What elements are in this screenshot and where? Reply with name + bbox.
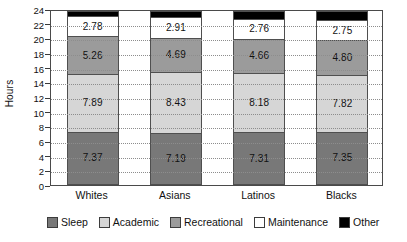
y-tick-label: 2 xyxy=(22,167,44,176)
gridline xyxy=(51,99,382,100)
segment-other[interactable] xyxy=(67,11,119,16)
legend-label: Academic xyxy=(113,217,159,228)
legend-label: Maintenance xyxy=(268,217,328,228)
bars-layer: 7.377.895.262.787.198.434.692.917.318.18… xyxy=(51,11,382,185)
y-tick-label: 20 xyxy=(22,35,44,44)
gridline xyxy=(51,40,382,41)
y-tick-label: 6 xyxy=(22,138,44,147)
chart-legend: SleepAcademicRecreationalMaintenanceOthe… xyxy=(47,214,387,230)
x-axis-tick-labels: WhitesAsiansLatinosBlacks xyxy=(50,189,383,205)
segment-value-label: 2.75 xyxy=(332,26,352,36)
gridline xyxy=(51,143,382,144)
y-axis-tick-labels: 024681012141618202224 xyxy=(22,10,44,186)
legend-swatch-icon xyxy=(99,217,110,228)
segment-maintenance[interactable]: 2.91 xyxy=(150,17,202,38)
legend-item-maintenance[interactable]: Maintenance xyxy=(254,217,328,228)
gridline xyxy=(51,172,382,173)
segment-sleep[interactable]: 7.19 xyxy=(150,133,202,185)
legend-label: Recreational xyxy=(184,217,243,228)
segment-value-label: 7.82 xyxy=(332,99,352,109)
x-tick-label-whites: Whites xyxy=(52,189,132,202)
stacked-bar-chart: Hours 024681012141618202224 7.377.895.26… xyxy=(0,0,407,242)
legend-label: Sleep xyxy=(61,217,88,228)
y-tick-label: 8 xyxy=(22,123,44,132)
bar-latinos[interactable]: 7.318.184.662.76 xyxy=(233,11,285,185)
y-axis-title: Hours xyxy=(4,64,15,124)
segment-academic[interactable]: 8.18 xyxy=(233,73,285,132)
legend-item-recreational[interactable]: Recreational xyxy=(170,217,243,228)
x-tick-label-latinos: Latinos xyxy=(218,189,298,202)
segment-other[interactable] xyxy=(316,11,368,20)
bar-blacks[interactable]: 7.357.824.802.75 xyxy=(316,11,368,185)
legend-label: Other xyxy=(353,217,379,228)
legend-item-sleep[interactable]: Sleep xyxy=(47,217,88,228)
segment-maintenance[interactable]: 2.75 xyxy=(316,20,368,40)
y-tick-label: 16 xyxy=(22,64,44,73)
segment-value-label: 7.19 xyxy=(166,154,186,164)
gridline xyxy=(51,128,382,129)
segment-other[interactable] xyxy=(233,11,285,19)
segment-value-label: 2.78 xyxy=(83,22,103,32)
bar-whites[interactable]: 7.377.895.262.78 xyxy=(67,11,119,185)
y-tick-label: 18 xyxy=(22,50,44,59)
segment-value-label: 4.66 xyxy=(249,51,269,61)
y-tick-label: 10 xyxy=(22,108,44,117)
gridline xyxy=(51,114,382,115)
y-tick-label: 12 xyxy=(22,94,44,103)
segment-other[interactable] xyxy=(150,11,202,17)
y-tick-label: 0 xyxy=(22,182,44,191)
y-tick-label: 14 xyxy=(22,79,44,88)
y-tick-label: 22 xyxy=(22,20,44,29)
gridline xyxy=(51,26,382,27)
bar-asians[interactable]: 7.198.434.692.91 xyxy=(150,11,202,185)
segment-value-label: 2.91 xyxy=(166,23,186,33)
legend-item-academic[interactable]: Academic xyxy=(99,217,159,228)
gridline xyxy=(51,158,382,159)
gridline xyxy=(51,55,382,56)
y-tick-label: 4 xyxy=(22,152,44,161)
segment-academic[interactable]: 8.43 xyxy=(150,72,202,133)
segment-academic[interactable]: 7.89 xyxy=(67,74,119,131)
gridline xyxy=(51,70,382,71)
y-tick-label: 24 xyxy=(22,6,44,15)
gridline xyxy=(51,84,382,85)
legend-swatch-icon xyxy=(254,217,265,228)
legend-swatch-icon xyxy=(47,217,58,228)
legend-swatch-icon xyxy=(339,217,350,228)
legend-swatch-icon xyxy=(170,217,181,228)
x-tick-label-asians: Asians xyxy=(135,189,215,202)
legend-item-other[interactable]: Other xyxy=(339,217,379,228)
x-tick-label-blacks: Blacks xyxy=(301,189,381,202)
segment-maintenance[interactable]: 2.76 xyxy=(233,19,285,39)
plot-area: 7.377.895.262.787.198.434.692.917.318.18… xyxy=(50,10,383,186)
